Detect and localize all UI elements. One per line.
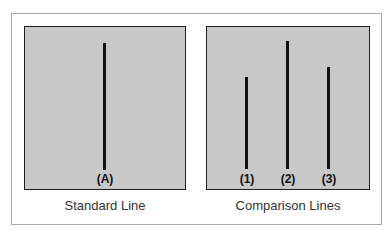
comparison-lines-caption: Comparison Lines bbox=[236, 198, 341, 213]
comparison-line-2 bbox=[286, 41, 289, 169]
standard-line-a bbox=[103, 43, 106, 170]
label-a: (A) bbox=[97, 172, 114, 186]
standard-line-caption: Standard Line bbox=[65, 198, 146, 213]
label-3: (3) bbox=[322, 172, 337, 186]
label-1: (1) bbox=[240, 172, 255, 186]
comparison-line-3 bbox=[327, 67, 330, 169]
comparison-line-1 bbox=[245, 77, 248, 169]
label-2: (2) bbox=[281, 172, 296, 186]
